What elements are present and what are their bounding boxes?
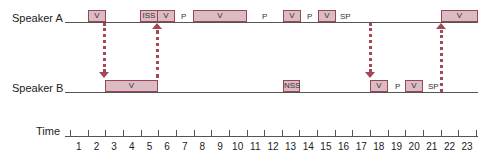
time-tick-label: 22	[440, 141, 458, 152]
time-tick-label: 20	[405, 141, 423, 152]
arrow-down-icon	[99, 72, 109, 78]
time-tick	[211, 130, 212, 137]
time-tick	[335, 130, 336, 137]
time-tick	[282, 130, 283, 137]
speaker-a-switching-pause: SP	[340, 12, 351, 21]
time-tick-label: 1	[70, 141, 88, 152]
time-tick	[423, 130, 424, 137]
time-tick	[370, 130, 371, 137]
speaker-b-event: V	[405, 80, 423, 92]
turn-arrow-up	[440, 30, 443, 92]
time-tick-label: 9	[211, 141, 229, 152]
time-tick-label: 5	[140, 141, 158, 152]
speaker-a-event: V	[157, 10, 175, 22]
time-tick-label: 14	[299, 141, 317, 152]
time-tick-label: 18	[370, 141, 388, 152]
time-tick	[352, 130, 353, 137]
time-tick	[458, 130, 459, 137]
time-tick	[229, 130, 230, 137]
turn-arrow-down	[103, 23, 106, 72]
speaker-a-pause: P	[262, 12, 267, 21]
time-tick	[388, 130, 389, 137]
time-tick	[194, 130, 195, 137]
speaker-a-event: V	[283, 10, 301, 22]
time-tick-label: 10	[229, 141, 247, 152]
time-tick	[441, 130, 442, 137]
speaker-a-event: V	[88, 10, 106, 22]
time-tick-label: 12	[264, 141, 282, 152]
time-tick	[88, 130, 89, 137]
time-tick-label: 19	[388, 141, 406, 152]
time-tick	[405, 130, 406, 137]
time-tick-label: 6	[158, 141, 176, 152]
time-tick-label: 11	[246, 141, 264, 152]
speaker-a-event: V	[193, 10, 247, 22]
time-tick-label: 17	[352, 141, 370, 152]
time-tick-label: 2	[87, 141, 105, 152]
time-tick	[141, 130, 142, 137]
arrow-up-icon	[436, 23, 446, 29]
time-tick	[176, 130, 177, 137]
time-tick-label: 7	[176, 141, 194, 152]
time-label: Time	[36, 125, 60, 137]
turn-arrow-up	[156, 30, 159, 78]
speaker-b-event: NSS	[283, 80, 300, 92]
time-tick-label: 23	[458, 141, 476, 152]
speaker-b-pause: P	[395, 82, 400, 91]
speaker-a-pause: P	[181, 12, 186, 21]
time-tick	[476, 130, 477, 137]
time-axis-line	[65, 136, 478, 137]
time-tick	[247, 130, 248, 137]
speaker-a-event: V	[318, 10, 336, 22]
speaker-b-event: V	[370, 80, 388, 92]
time-tick	[264, 130, 265, 137]
speaker-b-switching-pause: SP	[428, 82, 439, 91]
time-tick-label: 15	[317, 141, 335, 152]
speaker-b-label: Speaker B	[12, 82, 63, 94]
time-tick	[70, 130, 71, 137]
arrow-down-icon	[365, 72, 375, 78]
time-tick-label: 3	[105, 141, 123, 152]
time-tick-label: 21	[423, 141, 441, 152]
time-tick-label: 8	[193, 141, 211, 152]
time-tick	[105, 130, 106, 137]
time-tick-label: 4	[123, 141, 141, 152]
time-tick	[317, 130, 318, 137]
time-tick-label: 16	[335, 141, 353, 152]
speaker-b-event: V	[105, 80, 158, 92]
time-tick	[158, 130, 159, 137]
speaker-a-pause: P	[307, 12, 312, 21]
time-tick-label: 13	[282, 141, 300, 152]
speaker-b-timeline	[65, 92, 478, 93]
speaker-a-label: Speaker A	[12, 12, 63, 24]
time-tick	[299, 130, 300, 137]
turn-arrow-down	[369, 23, 372, 72]
speaker-a-event: ISS	[140, 10, 158, 22]
arrow-up-icon	[152, 23, 162, 29]
speaker-a-timeline	[65, 22, 478, 23]
time-tick	[123, 130, 124, 137]
speaker-a-event: V	[441, 10, 478, 22]
